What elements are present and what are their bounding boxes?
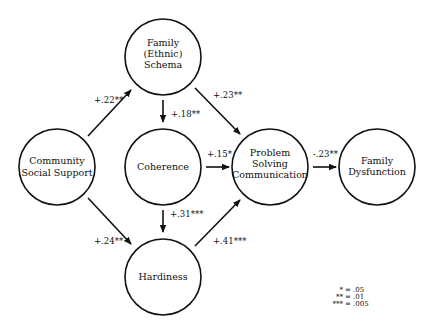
- node-family-dysfunction: Family Dysfunction: [339, 129, 415, 205]
- node-label-line: Communication: [232, 169, 308, 180]
- path-diagram: +.22** +.24** +.18** +.23** +.15* +.31**…: [0, 0, 435, 336]
- node-coherence: Coherence: [125, 129, 201, 205]
- node-label-line: Family: [147, 37, 180, 48]
- node-label-line: Hardiness: [138, 271, 187, 282]
- node-hardiness: Hardiness: [125, 239, 201, 315]
- node-label-line: Dysfunction: [348, 166, 406, 177]
- coef-coherence-psc: +.15*: [207, 149, 233, 159]
- node-label-line: Family: [361, 155, 394, 166]
- coef-coherence-hardiness: +.31***: [170, 209, 204, 219]
- node-label-line: Social Support: [21, 167, 92, 178]
- node-label-line: Community: [29, 155, 85, 166]
- node-label-line: Schema: [144, 59, 183, 70]
- coef-psc-dysfunction: -.23**: [313, 149, 339, 159]
- legend-symbol: ***: [333, 300, 344, 308]
- node-problem-solving-communication: Problem Solving Communication: [232, 129, 308, 205]
- node-label-line: Problem: [250, 147, 290, 158]
- node-label-line: Solving: [252, 158, 288, 169]
- legend-value: = .005: [345, 300, 369, 308]
- node-label-line: (Ethnic): [144, 48, 183, 59]
- coef-schema-coherence: +.18**: [171, 109, 201, 119]
- node-label-line: Coherence: [137, 161, 189, 172]
- coef-community-hardiness: +.24**: [94, 236, 124, 246]
- significance-legend: * = .05 ** = .01 *** = .005: [333, 286, 369, 308]
- node-community-social-support: Community Social Support: [19, 129, 95, 205]
- coef-schema-psc: +.23**: [213, 90, 243, 100]
- coef-community-schema: +.22**: [94, 95, 124, 105]
- coef-hardiness-psc: +.41***: [213, 236, 247, 246]
- node-family-ethnic-schema: Family (Ethnic) Schema: [125, 19, 201, 95]
